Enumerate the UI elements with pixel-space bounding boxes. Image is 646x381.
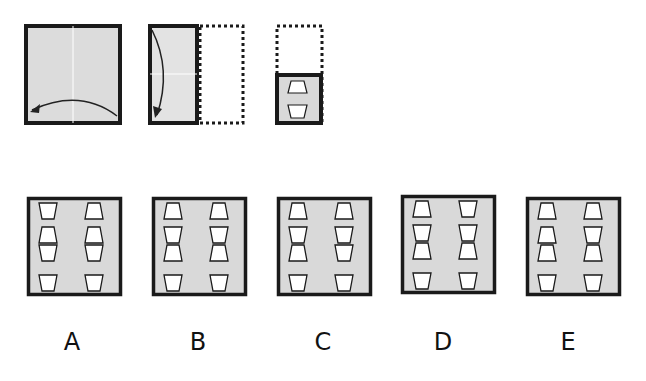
hole-trapezoid-icon (85, 203, 103, 219)
option-c-box[interactable] (277, 197, 373, 297)
hole-trapezoid-icon (39, 275, 57, 291)
hole-trapezoid-icon (459, 225, 477, 241)
hole-trapezoid-icon (164, 203, 182, 219)
hole-trapezoid-icon (289, 245, 307, 261)
hole-trapezoid-icon (538, 275, 556, 291)
step-1-diagram (0, 0, 646, 381)
hole-trapezoid-icon (85, 245, 103, 261)
hole-trapezoid-icon (538, 227, 556, 243)
hole-trapezoid-icon (39, 245, 57, 261)
option-label-b[interactable]: B (178, 328, 218, 356)
hole-trapezoid-icon (210, 227, 228, 243)
hole-trapezoid-icon (164, 227, 182, 243)
hole-trapezoid-icon (335, 275, 353, 291)
hole-trapezoid-icon (210, 245, 228, 261)
hole-trapezoid-icon (335, 227, 353, 243)
option-d-box[interactable] (401, 195, 497, 295)
hole-trapezoid-icon (584, 245, 602, 261)
hole-trapezoid-icon (289, 227, 307, 243)
option-label-c[interactable]: C (303, 328, 343, 356)
hole-trapezoid-icon (459, 201, 477, 217)
hole-trapezoid-icon (85, 227, 103, 243)
hole-trapezoid-icon (39, 203, 57, 219)
option-b-box[interactable] (152, 197, 248, 297)
hole-trapezoid-icon (85, 275, 103, 291)
hole-trapezoid-icon (538, 203, 556, 219)
hole-trapezoid-icon (413, 201, 431, 217)
hole-trapezoid-icon (413, 243, 431, 259)
hole-trapezoid-icon (413, 273, 431, 289)
hole-trapezoid-icon (164, 275, 182, 291)
hole-trapezoid-icon (584, 227, 602, 243)
option-a-box[interactable] (27, 197, 123, 297)
hole-trapezoid-icon (289, 203, 307, 219)
hole-trapezoid-icon (584, 275, 602, 291)
option-label-d[interactable]: D (423, 328, 463, 356)
hole-trapezoid-icon (459, 273, 477, 289)
hole-trapezoid-icon (538, 245, 556, 261)
option-label-a[interactable]: A (52, 328, 92, 356)
hole-trapezoid-icon (164, 245, 182, 261)
hole-trapezoid-icon (210, 275, 228, 291)
option-label-e[interactable]: E (548, 328, 588, 356)
option-e-box[interactable] (526, 197, 622, 297)
hole-trapezoid-icon (210, 203, 228, 219)
hole-trapezoid-icon (39, 227, 57, 243)
hole-trapezoid-icon (459, 243, 477, 259)
hole-trapezoid-icon (289, 275, 307, 291)
hole-trapezoid-icon (413, 225, 431, 241)
hole-trapezoid-icon (584, 203, 602, 219)
hole-trapezoid-icon (335, 203, 353, 219)
hole-trapezoid-icon (335, 245, 353, 261)
